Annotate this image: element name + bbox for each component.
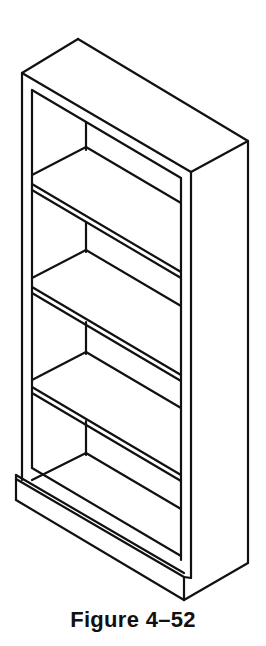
drawing-line (16, 479, 184, 577)
drawing-line (184, 577, 191, 578)
drawing-line (32, 287, 181, 375)
drawing-line (16, 475, 184, 573)
drawing-line (32, 147, 86, 175)
drawing-line (16, 500, 184, 600)
drawing-line (32, 184, 181, 272)
drawing-line (86, 250, 181, 306)
drawing-line (191, 141, 248, 172)
drawing-line (78, 39, 248, 141)
drawing-line (32, 190, 181, 278)
drawing-line (32, 453, 86, 480)
drawing-line (22, 39, 78, 73)
drawing-line (32, 90, 181, 178)
drawing-line (32, 387, 181, 475)
drawing-line (32, 352, 86, 380)
drawing-line (22, 73, 191, 172)
drawing-line (86, 352, 181, 408)
drawing-line (86, 147, 181, 203)
drawing-line (32, 250, 86, 278)
drawing-line (184, 563, 248, 600)
bookshelf-drawing (0, 0, 266, 646)
drawing-line (86, 453, 181, 509)
drawing-line (32, 468, 181, 556)
figure-caption: Figure 4–52 (0, 607, 266, 633)
